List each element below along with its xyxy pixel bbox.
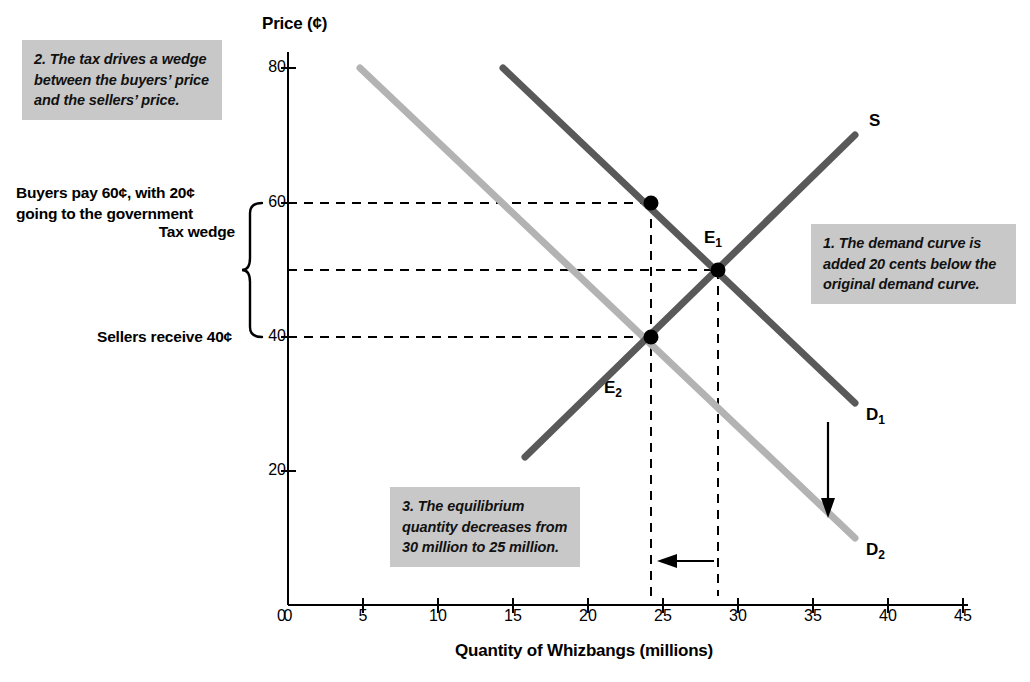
supply-curve bbox=[525, 135, 855, 457]
quantity-decrease-arrow bbox=[657, 554, 714, 568]
tax-wedge-brace bbox=[242, 203, 262, 337]
plot-canvas bbox=[0, 0, 1030, 682]
demand-shift-arrow bbox=[821, 422, 835, 518]
point-e1 bbox=[711, 263, 726, 278]
demand-curve-1 bbox=[503, 68, 855, 403]
point-e2 bbox=[644, 330, 659, 345]
reference-lines bbox=[288, 203, 718, 596]
point-buyers-price bbox=[644, 196, 659, 211]
tax-wedge-figure: 2. The tax drives a wedge between the bu… bbox=[0, 0, 1030, 682]
demand-curve-2 bbox=[360, 68, 855, 538]
